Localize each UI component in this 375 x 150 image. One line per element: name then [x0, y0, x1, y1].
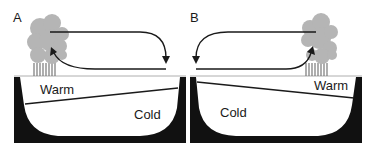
- panel-letter: A: [13, 10, 22, 25]
- rain-icon: [34, 63, 55, 76]
- panel-a: A Warm Cold: [0, 0, 187, 150]
- panel-a-graphic: [0, 0, 187, 150]
- panel-b: B Warm Cold: [188, 0, 375, 150]
- warm-label: Warm: [314, 78, 348, 93]
- cloud-icon: [27, 14, 69, 64]
- panel-b-graphic: [188, 0, 375, 150]
- cloud-icon: [301, 13, 338, 64]
- cold-label: Cold: [134, 107, 161, 122]
- cold-label: Cold: [220, 105, 247, 120]
- arrowhead-down: [192, 56, 200, 64]
- rain-icon: [306, 63, 327, 76]
- warm-label: Warm: [40, 82, 74, 97]
- arrowhead-down: [162, 56, 170, 64]
- panel-letter: B: [190, 10, 199, 25]
- walker-circulation-arrow: [196, 32, 316, 69]
